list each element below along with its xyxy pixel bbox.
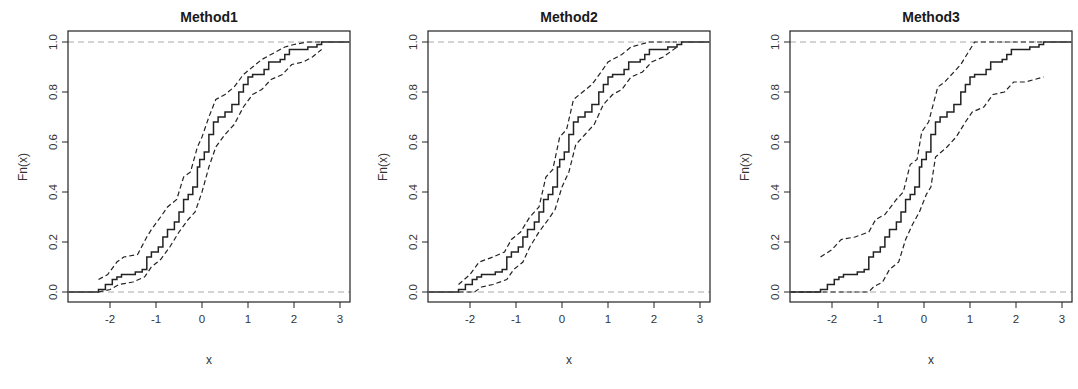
x-tick-label: 2 <box>651 313 657 325</box>
x-tick-label: 3 <box>1059 313 1065 325</box>
ecdf-line <box>429 42 710 292</box>
y-tick-label: 0.0 <box>47 284 59 300</box>
lower-band-line <box>459 47 678 292</box>
y-tick-label: 1.0 <box>769 34 781 50</box>
y-tick-label: 0.4 <box>47 183 59 200</box>
x-tick-label: 0 <box>921 313 927 325</box>
y-tick-label: 0.2 <box>407 234 419 250</box>
y-tick-label: 0.8 <box>47 84 59 100</box>
x-tick-label: 2 <box>291 313 297 325</box>
y-tick-label: 0.2 <box>769 234 781 250</box>
panel-title: Method2 <box>540 9 598 25</box>
x-tick-label: 0 <box>199 313 205 325</box>
y-tick-label: 1.0 <box>47 34 59 50</box>
panel-title: Method1 <box>180 9 238 25</box>
x-tick-label: -1 <box>511 313 521 325</box>
x-tick-label: 1 <box>245 313 251 325</box>
panel-method2: Method2 Fn(x) x -2-101230.00.20.40.60.81… <box>376 9 710 367</box>
ecdf-line <box>791 42 1072 292</box>
y-tick-label: 0.4 <box>407 183 419 200</box>
lower-band-line <box>791 77 1044 292</box>
x-tick-label: -2 <box>827 313 837 325</box>
x-tick-label: -1 <box>873 313 883 325</box>
x-tick-label: -2 <box>105 313 115 325</box>
y-tick-label: 0.0 <box>769 284 781 300</box>
y-tick-label: 0.8 <box>407 84 419 100</box>
y-axis-label: Fn(x) <box>376 153 390 181</box>
x-tick-label: -2 <box>465 313 475 325</box>
y-tick-label: 0.0 <box>407 284 419 300</box>
y-tick-label: 0.4 <box>769 183 781 200</box>
x-tick-label: 2 <box>1013 313 1019 325</box>
x-tick-label: -1 <box>151 313 161 325</box>
x-tick-label: 0 <box>559 313 565 325</box>
upper-band-line <box>99 42 322 280</box>
y-tick-label: 0.6 <box>769 134 781 150</box>
x-tick-label: 3 <box>337 313 343 325</box>
y-tick-label: 0.6 <box>47 134 59 150</box>
x-tick-label: 3 <box>697 313 703 325</box>
x-tick-label: 1 <box>967 313 973 325</box>
upper-band-line <box>459 42 678 285</box>
x-tick-label: 1 <box>605 313 611 325</box>
y-tick-label: 0.6 <box>407 134 419 150</box>
plot-frame <box>428 31 710 302</box>
ecdf-comparison-chart: Method1 Fn(x) x -2-101230.00.20.40.60.81… <box>0 0 1078 389</box>
y-tick-label: 0.2 <box>47 234 59 250</box>
upper-band-line <box>821 42 1044 257</box>
x-axis-label: x <box>928 353 934 367</box>
panel-method3: Method3 Fn(x) x -2-101230.00.20.40.60.81… <box>738 9 1072 367</box>
y-axis-label: Fn(x) <box>16 153 30 181</box>
x-axis-label: x <box>566 353 572 367</box>
panel-method1: Method1 Fn(x) x -2-101230.00.20.40.60.81… <box>16 9 350 367</box>
y-axis-label: Fn(x) <box>738 153 752 181</box>
panel-title: Method3 <box>902 9 960 25</box>
x-axis-label: x <box>206 353 212 367</box>
y-tick-label: 0.8 <box>769 84 781 100</box>
y-tick-label: 1.0 <box>407 34 419 50</box>
plot-frame <box>790 31 1072 302</box>
